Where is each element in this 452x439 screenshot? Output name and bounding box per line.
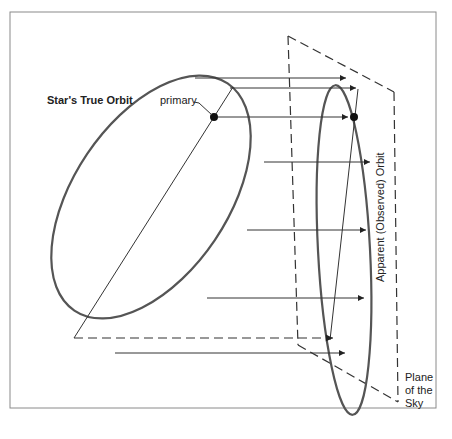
plane-of-sky-label-line1: Plane	[405, 371, 433, 383]
apparent-orbit-ellipse	[309, 84, 378, 416]
orbit-projection-diagram: Star's True Orbit primary Apparent (Obse…	[0, 0, 452, 439]
primary-leader-line	[194, 102, 212, 115]
primary-label: primary	[160, 94, 197, 106]
primary-star-apparent	[350, 113, 358, 121]
plane-of-sky-label-line2: of the	[405, 384, 433, 396]
apparent-orbit-label: Apparent (Observed) Orbit	[374, 152, 386, 282]
figure-frame	[10, 12, 436, 408]
apparent-orbit-axis	[330, 89, 358, 340]
true-orbit-ellipse	[11, 40, 292, 353]
plane-of-sky-label-line3: Sky	[405, 397, 424, 409]
true-orbit-label: Star's True Orbit	[47, 94, 133, 106]
projection-arrows	[74, 78, 370, 353]
